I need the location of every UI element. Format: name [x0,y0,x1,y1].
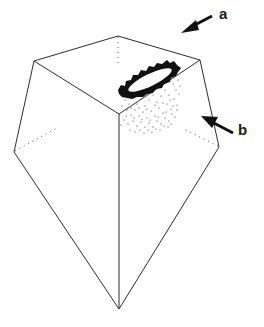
hidden-edge-left [15,128,57,151]
label-a: a [219,6,227,21]
hidden-edge-right [184,129,218,146]
arrow-a [181,16,212,33]
hidden-edges [15,37,218,151]
arrow-b-head [201,116,218,128]
crystal-outline [14,36,219,309]
arrow-a-head [181,20,199,33]
right-side-edge [200,60,219,147]
right-pyramid-edge [119,147,219,309]
left-pyramid-edge [14,152,119,309]
top-face-left-front-edge [34,61,119,114]
crystal-diagram [0,0,264,327]
top-face-back-edges [34,36,200,61]
left-side-edge [14,61,34,152]
label-b: b [238,122,247,137]
arrow-b [201,116,233,133]
